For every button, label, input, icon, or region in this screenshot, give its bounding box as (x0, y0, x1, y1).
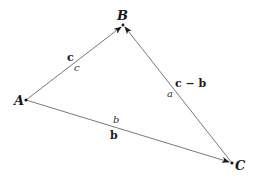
edge-a-to-c (26, 100, 229, 162)
edge-ac-length-label: b (113, 114, 119, 125)
edge-ab-length-label: c (74, 62, 80, 73)
edge-cb-vector-label: c − b (175, 77, 207, 90)
vertex-a-dot (24, 98, 27, 101)
vector-triangle-diagram: A B C c c b b c − b a (0, 0, 256, 183)
edge-c-to-b (125, 27, 232, 163)
vertex-b-label: B (116, 8, 128, 23)
edge-ab-vector-label: c (67, 51, 74, 64)
vertex-c-dot (230, 161, 233, 164)
vertex-b-dot (122, 24, 125, 27)
edge-cb-length-label: a (167, 88, 173, 99)
edge-ac-vector-label: b (110, 129, 118, 142)
vertex-a-label: A (12, 93, 24, 108)
vertex-c-label: C (235, 158, 246, 173)
